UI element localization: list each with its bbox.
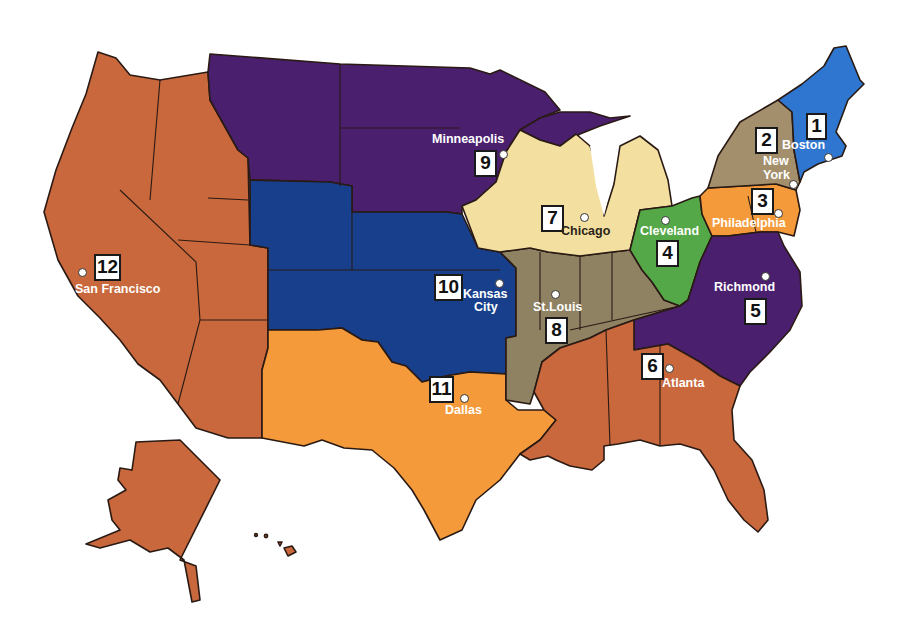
san-francisco-label: San Francisco (75, 282, 160, 296)
hawaii-region[interactable] (284, 546, 296, 556)
chicago-dot (580, 213, 589, 222)
st-louis-label: St.Louis (533, 300, 582, 314)
district-4-badge: 4 (656, 240, 679, 267)
atlanta-dot (665, 364, 674, 373)
alaska-region[interactable] (86, 440, 220, 602)
district-12-badge: 12 (94, 254, 121, 281)
district-1-badge: 1 (806, 113, 827, 140)
atlanta-label: Atlanta (662, 376, 704, 390)
new-york-label-line1: New (763, 154, 789, 168)
kansas-city-label-line1: Kansas (463, 287, 507, 301)
kansas-city-label-line2: City (474, 300, 498, 314)
boston-label: Boston (782, 138, 825, 152)
philadelphia-label: Philadelphia (712, 216, 786, 230)
dallas-dot (460, 394, 469, 403)
richmond-label: Richmond (714, 280, 775, 294)
federal-reserve-district-map (0, 0, 916, 634)
district-5-badge: 5 (744, 298, 767, 325)
minneapolis-dot (499, 150, 508, 159)
district-11-badge: 11 (429, 376, 454, 403)
district-10-badge: 10 (434, 274, 463, 301)
new-york-label-line2: York (763, 168, 790, 182)
san-francisco-dot (78, 268, 87, 277)
district-2-badge: 2 (755, 127, 778, 154)
district-8-badge: 8 (545, 317, 568, 344)
cleveland-label: Cleveland (640, 224, 699, 238)
district-9-badge: 9 (474, 150, 497, 177)
st-louis-dot (551, 290, 560, 299)
chicago-label: Chicago (561, 224, 610, 238)
boston-dot (824, 153, 833, 162)
minneapolis-label: Minneapolis (432, 132, 504, 146)
dallas-label: Dallas (445, 403, 482, 417)
district-3-badge: 3 (751, 188, 774, 215)
district-6-badge: 6 (641, 353, 664, 380)
new-york-dot (789, 180, 798, 189)
